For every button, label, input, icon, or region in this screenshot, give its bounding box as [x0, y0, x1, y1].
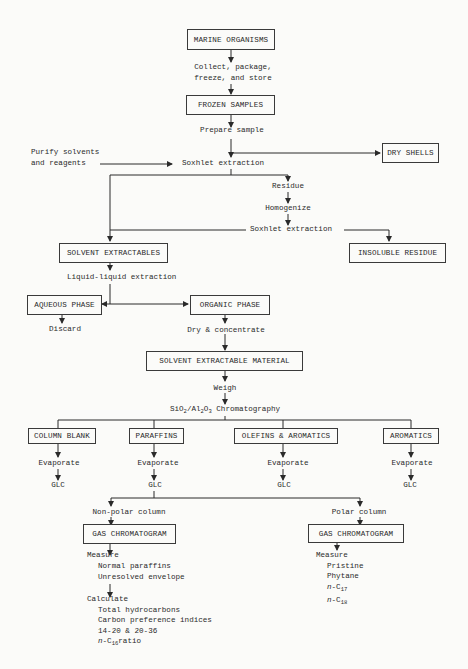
measure-item: n-C18 — [316, 595, 363, 608]
measure-item: Normal paraffins — [87, 561, 185, 572]
non-polar-column-step: Non-polar column — [93, 507, 166, 518]
solvent-extractables-box: SOLVENT EXTRACTABLES — [59, 243, 168, 263]
glc-column-blank: GLC — [51, 480, 65, 491]
calculate-heading: Calculate — [87, 594, 212, 605]
paraffins-box: PARAFFINS — [129, 428, 184, 444]
nonpolar-calculate-block: Calculate Total hydrocarbons Carbon pref… — [87, 594, 212, 649]
nonpolar-measure-block: Measure Normal paraffins Unresolved enve… — [87, 550, 185, 583]
gas-chromatogram-nonpolar-box: GAS CHROMATOGRAM — [83, 524, 176, 544]
organic-phase-box: ORGANIC PHASE — [190, 295, 270, 315]
collect-step: Collect, package,freeze, and store — [194, 62, 271, 84]
discard-step: Discard — [49, 324, 81, 335]
calculate-item: 14-20 & 20-36 — [87, 626, 212, 637]
prepare-sample-step: Prepare sample — [200, 125, 264, 136]
polar-measure-block: Measure Pristine Phytane n-C17 n-C18 — [316, 550, 363, 608]
evaporate-paraffins: Evaporate — [137, 458, 178, 469]
weigh-step: Weigh — [214, 383, 237, 394]
dry-shells-box: DRY SHELLS — [382, 143, 439, 163]
calculate-item: Total hydrocarbons — [87, 605, 212, 616]
evaporate-column-blank: Evaporate — [38, 458, 79, 469]
aromatics-box: AROMATICS — [383, 428, 439, 444]
column-blank-box: COLUMN BLANK — [28, 428, 96, 444]
measure-item: Unresolved envelope — [87, 572, 185, 583]
chromatography-step: SiO2/Al2O3 Chromatography — [170, 404, 280, 417]
liquid-liquid-extraction-step: Liquid-liquid extraction — [67, 272, 176, 283]
measure-item: n-C17 — [316, 582, 363, 595]
dry-concentrate-step: Dry & concentrate — [187, 325, 264, 336]
measure-heading: Measure — [87, 550, 185, 561]
soxhlet-extraction-1: Soxhlet extraction — [182, 158, 264, 169]
homogenize-step: Homogenize — [265, 203, 311, 214]
aqueous-phase-box: AQUEOUS PHASE — [27, 295, 102, 315]
measure-heading: Measure — [316, 550, 363, 561]
purify-line2: and reagents — [31, 158, 99, 169]
purify-solvents-step: Purify solventsand reagents — [31, 147, 99, 169]
soxhlet-extraction-2: Soxhlet extraction — [250, 224, 332, 235]
glc-aromatics: GLC — [403, 480, 417, 491]
glc-paraffins: GLC — [148, 480, 162, 491]
collect-step-line2: freeze, and store — [194, 73, 271, 84]
measure-item: Pristine — [316, 561, 363, 572]
measure-item: Phytane — [316, 571, 363, 582]
polar-column-step: Polar column — [332, 507, 387, 518]
collect-step-line1: Collect, package, — [194, 62, 271, 73]
olefins-aromatics-box: OLEFINS & AROMATICS — [234, 428, 338, 444]
marine-organisms-box: MARINE ORGANISMS — [187, 29, 275, 50]
purify-line1: Purify solvents — [31, 147, 99, 158]
glc-olefins: GLC — [277, 480, 291, 491]
residue-step: Residue — [272, 181, 304, 192]
gas-chromatogram-polar-box: GAS CHROMATOGRAM — [308, 524, 404, 543]
solvent-extractable-material-box: SOLVENT EXTRACTABLE MATERIAL — [146, 351, 303, 371]
insoluble-residue-box: INSOLUBLE RESIDUE — [349, 243, 446, 263]
frozen-samples-box: FROZEN SAMPLES — [186, 95, 275, 115]
evaporate-olefins: Evaporate — [267, 458, 308, 469]
calculate-item: Carbon preference indices — [87, 615, 212, 626]
calculate-item: n-C16ratio — [87, 636, 212, 649]
evaporate-aromatics: Evaporate — [391, 458, 432, 469]
